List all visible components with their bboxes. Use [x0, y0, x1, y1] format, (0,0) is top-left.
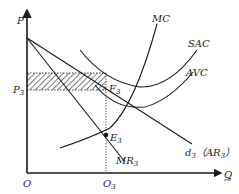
mc-label: MC [151, 13, 170, 24]
demand-label: d3（AR3） [185, 147, 235, 160]
mr-curve [27, 38, 125, 162]
e3-label: E3 [109, 132, 122, 145]
q3-label: O3 [103, 178, 116, 191]
origin-label: O [23, 178, 31, 189]
e3-point [104, 133, 109, 138]
mr-label: MR3 [115, 155, 139, 168]
avc-label: AVC [185, 67, 208, 78]
p3-label: P3 [12, 84, 25, 97]
sac-label: SAC [188, 38, 210, 49]
x-axis-label: Q [224, 169, 232, 180]
economics-diagram: P Q O O3 P3 F3 E3 MC SAC AVC MR3 d3（AR3） [0, 0, 239, 194]
y-axis-label: P [16, 15, 24, 26]
